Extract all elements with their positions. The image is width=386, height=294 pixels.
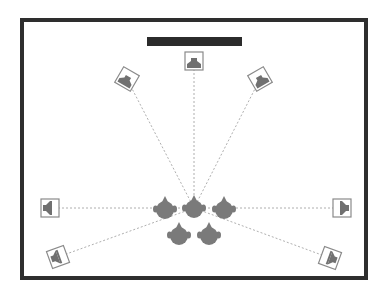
speaker-center (185, 52, 203, 70)
tv-screen (147, 37, 242, 46)
driver-cone (340, 201, 342, 215)
driver-cone (50, 201, 52, 215)
speaker-side-left (41, 199, 59, 217)
speaker-side-right (333, 199, 351, 217)
speaker-layout-diagram (0, 0, 386, 294)
